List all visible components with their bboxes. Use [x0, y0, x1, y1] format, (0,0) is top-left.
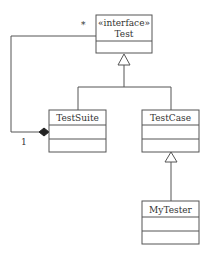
class-testsuite[interactable]: TestSuite — [49, 110, 106, 152]
class-test[interactable]: «interface» Test — [96, 15, 152, 53]
realization-tree — [78, 54, 171, 110]
inheritance-triangle-icon — [165, 152, 177, 162]
class-mytester[interactable]: MyTester — [142, 201, 199, 244]
class-name: Test — [115, 29, 134, 39]
multiplicity-many: * — [81, 20, 86, 30]
inheritance-triangle-icon — [118, 54, 130, 65]
generalization-mytester — [165, 152, 177, 201]
multiplicity-one: 1 — [21, 137, 27, 147]
composition-diamond-icon — [39, 128, 49, 136]
class-name: MyTester — [149, 205, 192, 215]
class-name: TestCase — [150, 113, 191, 123]
uml-diagram: * 1 «interface» Test TestSuite TestCase — [0, 0, 209, 253]
class-name: TestSuite — [56, 113, 99, 123]
class-stereotype: «interface» — [98, 18, 150, 28]
class-testcase[interactable]: TestCase — [142, 110, 199, 152]
